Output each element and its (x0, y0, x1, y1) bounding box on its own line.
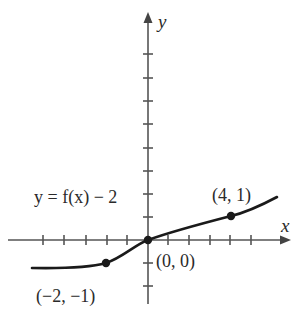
x-axis-label: x (280, 215, 290, 236)
function-graph: y x y = f(x) − 2 (−2, −1) (0, 0) (4, 1) (0, 0, 299, 320)
point-neg2-neg1 (102, 259, 110, 267)
point-4-1 (227, 212, 235, 220)
x-axis-arrow-icon (280, 236, 291, 245)
function-curve (32, 197, 277, 268)
y-axis-label: y (156, 11, 167, 32)
y-axis-arrow-icon (144, 12, 153, 23)
y-axis (143, 12, 153, 304)
point-label-4-1: (4, 1) (212, 185, 251, 206)
point-label-origin: (0, 0) (156, 251, 195, 272)
point-label-neg2-neg1: (−2, −1) (36, 286, 95, 307)
point-origin (144, 236, 152, 244)
function-label: y = f(x) − 2 (34, 187, 117, 208)
